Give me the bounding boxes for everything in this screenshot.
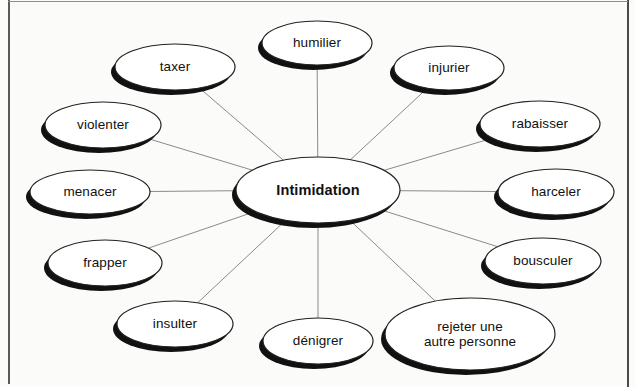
node-ellipse-rejeter: [385, 298, 555, 370]
node-ellipse-denigrer: [263, 318, 373, 364]
connector-line-injurier: [351, 88, 428, 159]
node-ellipse-menacer: [30, 170, 150, 214]
connector-line-humilier: [317, 65, 318, 157]
node-ellipse-taxer: [115, 44, 235, 90]
connector-line-menacer: [150, 191, 236, 192]
ellipse-shapes-group: [30, 21, 614, 370]
connector-line-rejeter: [350, 220, 435, 301]
concept-map-page: humilierinjurierrabaisserharcelerbouscul…: [0, 0, 635, 387]
node-ellipse-harceler: [498, 169, 614, 215]
concept-map-diagram: [0, 0, 635, 387]
connector-line-insulter: [198, 220, 286, 302]
connector-line-bousculer: [383, 210, 498, 246]
connector-line-harceler: [400, 191, 498, 192]
connector-line-rabaisser: [384, 138, 493, 170]
node-ellipse-insulter: [117, 301, 233, 347]
node-ellipse-center: [236, 157, 400, 223]
node-ellipse-violenter: [45, 102, 161, 148]
node-ellipse-injurier: [394, 46, 504, 90]
connector-line-taxer: [199, 88, 283, 160]
connector-line-violenter: [149, 139, 252, 170]
node-ellipse-humilier: [262, 21, 372, 65]
node-ellipse-rabaisser: [480, 101, 600, 147]
connector-line-frapper: [148, 211, 255, 248]
node-ellipse-bousculer: [485, 238, 601, 284]
node-ellipse-frapper: [48, 240, 162, 286]
